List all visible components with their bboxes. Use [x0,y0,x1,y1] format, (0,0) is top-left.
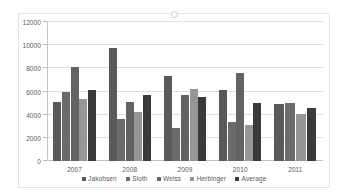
bar-herbinger-2008[interactable] [134,112,142,161]
bar-group [213,22,268,161]
bar-average-2008[interactable] [143,95,151,161]
y-axis-tick-label: 2000 [26,134,41,141]
y-axis-tick-label: 4000 [26,111,41,118]
bar-jakobsen-2008[interactable] [109,48,117,161]
y-axis-tick-label: 6000 [26,88,41,95]
legend-item-sloth[interactable]: Sloth [126,175,148,182]
bar-average-2010[interactable] [253,103,261,161]
chart-resize-handle[interactable] [171,11,178,18]
bar-average-2007[interactable] [88,90,96,161]
legend-label: Sloth [132,175,147,182]
bar-sloth-2009[interactable] [172,128,180,161]
bar-sloth-2008[interactable] [117,119,125,161]
bar-weiss-2008[interactable] [126,102,134,161]
bar-weiss-2009[interactable] [181,95,189,161]
bar-weiss-2010[interactable] [236,73,244,161]
bar-herbinger-2009[interactable] [190,89,198,161]
bar-jakobsen-2009[interactable] [164,76,172,161]
legend-label: Weiss [163,175,181,182]
plot-area: 020004000600080001000012000 200720082009… [47,22,323,161]
bar-sloth-2011[interactable] [285,103,295,161]
legend-swatch-icon [82,177,86,181]
bar-jakobsen-2011[interactable] [274,104,284,161]
legend-swatch-icon [157,177,161,181]
bar-jakobsen-2010[interactable] [219,90,227,161]
x-axis-tick-label: 2007 [47,166,102,173]
bar-weiss-2007[interactable] [71,67,79,161]
bar-average-2011[interactable] [307,108,317,161]
bar-sloth-2007[interactable] [62,92,70,162]
legend-label: Average [242,175,267,182]
y-axis-line [47,22,48,161]
bar-series-layer [47,22,323,161]
legend-swatch-icon [190,177,194,181]
chart-frame[interactable]: 020004000600080001000012000 200720082009… [18,13,330,188]
bar-jakobsen-2007[interactable] [53,102,61,161]
bar-group [47,22,102,161]
x-axis-tick-label: 2010 [213,166,268,173]
legend-item-weiss[interactable]: Weiss [157,175,182,182]
legend-item-jakobsen[interactable]: Jakobsen [82,175,117,182]
legend-swatch-icon [126,177,130,181]
x-axis-tick-label: 2008 [102,166,157,173]
y-axis-tick-label: 10000 [22,42,41,49]
bar-herbinger-2011[interactable] [296,114,306,161]
legend-label: Herbinger [197,175,226,182]
bar-group [157,22,212,161]
y-axis-tick-label: 8000 [26,65,41,72]
bar-average-2009[interactable] [198,97,206,161]
bar-sloth-2010[interactable] [228,122,236,161]
chart-legend: JakobsenSlothWeissHerbingerAverage [19,175,329,182]
y-axis-tick-label: 0 [37,158,41,165]
bar-group [268,22,323,161]
bar-herbinger-2010[interactable] [245,125,253,161]
legend-swatch-icon [235,177,239,181]
legend-item-herbinger[interactable]: Herbinger [190,175,226,182]
legend-item-average[interactable]: Average [235,175,266,182]
bar-group [102,22,157,161]
bar-herbinger-2007[interactable] [79,99,87,161]
y-axis-tick-label: 12000 [22,19,41,26]
x-axis-tick-label: 2009 [157,166,212,173]
x-axis-tick-label: 2011 [268,166,323,173]
legend-label: Jakobsen [88,175,117,182]
